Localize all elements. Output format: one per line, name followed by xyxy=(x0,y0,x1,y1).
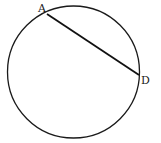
chord-ad xyxy=(47,14,139,75)
circle xyxy=(8,6,140,138)
point-label-d: D xyxy=(141,74,150,87)
circle-chord-diagram: A D xyxy=(0,0,161,143)
point-label-a: A xyxy=(37,2,47,15)
